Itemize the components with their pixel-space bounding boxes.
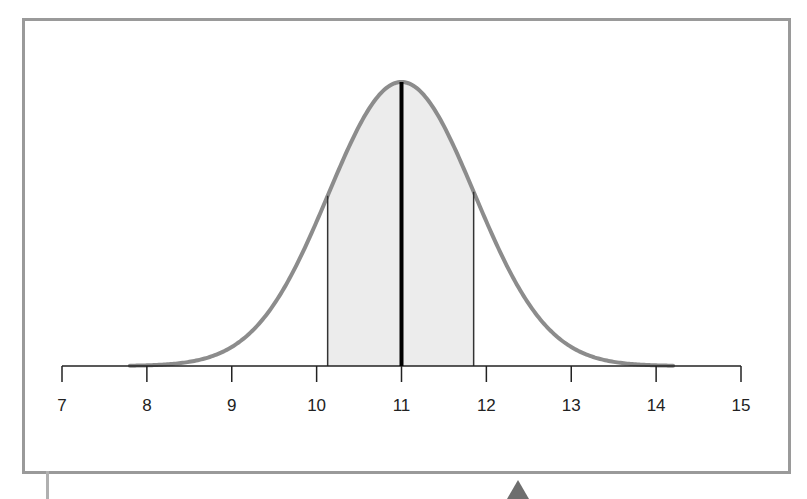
x-tick-label: 8 (142, 396, 151, 415)
x-tick-label: 14 (647, 396, 666, 415)
x-axis-tick-labels: 789101112131415 (57, 396, 750, 415)
x-tick-label: 7 (57, 396, 66, 415)
x-tick-label: 11 (393, 396, 411, 415)
x-tick-label: 9 (227, 396, 236, 415)
x-axis (62, 366, 741, 382)
x-tick-label: 12 (477, 396, 496, 415)
x-tick-label: 15 (732, 396, 751, 415)
x-tick-label: 10 (307, 396, 326, 415)
normal-distribution-plot: 789101112131415 (0, 0, 807, 499)
x-tick-label: 13 (562, 396, 581, 415)
